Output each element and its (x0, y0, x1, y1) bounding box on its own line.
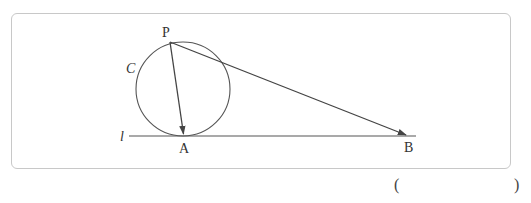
answer-close-paren: ) (514, 176, 519, 194)
label-l: l (120, 129, 124, 144)
circle-c (136, 42, 230, 136)
geometry-figure: P A B C l (0, 0, 531, 203)
vector-pb (170, 42, 406, 135)
label-c: C (126, 61, 136, 76)
vector-pa (170, 42, 184, 134)
label-b: B (404, 140, 413, 155)
label-a: A (179, 141, 190, 156)
label-p: P (162, 25, 170, 40)
answer-open-paren: ( (394, 176, 399, 194)
